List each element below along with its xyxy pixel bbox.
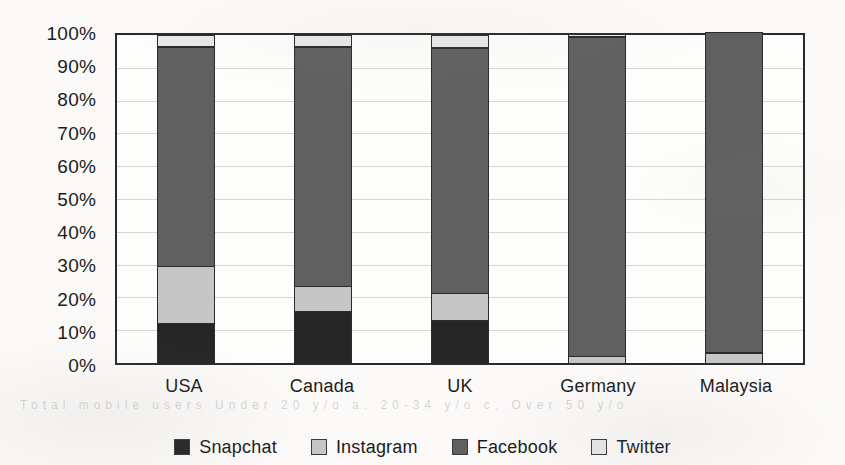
bar-segment-instagram[interactable] (157, 266, 215, 324)
legend-swatch-facebook (452, 439, 468, 455)
y-axis-tick-label: 80% (57, 90, 96, 109)
x-axis-tick-label: USA (165, 376, 203, 396)
stacked-bar-chart: 100%90%80%70%60%50%40%30%20%10%0% USACan… (0, 0, 845, 465)
x-axis-tick-label: Germany (560, 376, 635, 396)
plot-area (115, 33, 805, 365)
bar-slot (117, 35, 254, 363)
x-axis-tick-slot: UK (391, 376, 529, 406)
x-axis-tick-label: Malaysia (700, 376, 773, 396)
bar-uk[interactable] (431, 35, 489, 363)
y-axis-tick-label: 70% (57, 123, 96, 142)
bar-segment-facebook[interactable] (431, 48, 489, 294)
bar-germany[interactable] (568, 34, 626, 363)
legend-label: Instagram (336, 437, 418, 458)
y-axis-tick-label: 0% (68, 356, 96, 375)
bar-malaysia[interactable] (705, 32, 763, 363)
y-axis-tick-label: 90% (57, 57, 96, 76)
bars-layer (117, 35, 803, 363)
legend-label: Facebook (477, 437, 558, 458)
bar-segment-snapchat[interactable] (294, 311, 352, 364)
legend-item-facebook[interactable]: Facebook (452, 437, 558, 458)
bar-segment-twitter[interactable] (431, 35, 489, 48)
bar-segment-instagram[interactable] (431, 293, 489, 321)
bar-segment-instagram[interactable] (568, 356, 626, 364)
y-axis-tick-label: 40% (57, 223, 96, 242)
y-axis: 100%90%80%70%60%50%40%30%20%10%0% (18, 33, 106, 365)
bar-segment-snapchat[interactable] (157, 323, 215, 365)
chart-legend: SnapchatInstagramFacebookTwitter (0, 432, 845, 462)
x-axis-tick-slot: Canada (253, 376, 391, 406)
legend-item-snapchat[interactable]: Snapchat (174, 437, 277, 458)
x-axis-tick-slot: Malaysia (667, 376, 805, 406)
bar-slot (391, 35, 528, 363)
y-axis-tick-label: 60% (57, 156, 96, 175)
bar-slot (529, 35, 666, 363)
bar-segment-facebook[interactable] (294, 47, 352, 288)
y-axis-tick-label: 20% (57, 289, 96, 308)
legend-swatch-snapchat (174, 439, 190, 455)
y-axis-tick-label: 50% (57, 190, 96, 209)
bar-segment-facebook[interactable] (705, 32, 763, 352)
bar-segment-facebook[interactable] (568, 37, 626, 357)
legend-label: Twitter (616, 437, 670, 458)
legend-label: Snapchat (199, 437, 277, 458)
x-axis-tick-label: UK (447, 376, 472, 396)
bar-segment-instagram[interactable] (705, 353, 763, 365)
bar-segment-snapchat[interactable] (431, 320, 489, 365)
bar-slot (254, 35, 391, 363)
bar-segment-twitter[interactable] (157, 35, 215, 47)
y-axis-tick-label: 10% (57, 322, 96, 341)
legend-swatch-twitter (591, 439, 607, 455)
bar-slot (666, 35, 803, 363)
x-axis-tick-slot: USA (115, 376, 253, 406)
y-axis-tick-label: 100% (47, 24, 96, 43)
x-axis: USACanadaUKGermanyMalaysia (115, 376, 805, 406)
bar-usa[interactable] (157, 35, 215, 363)
bar-segment-facebook[interactable] (157, 47, 215, 268)
bar-segment-twitter[interactable] (294, 35, 352, 47)
legend-item-instagram[interactable]: Instagram (311, 437, 418, 458)
x-axis-tick-label: Canada (290, 376, 354, 396)
legend-item-twitter[interactable]: Twitter (591, 437, 670, 458)
bar-canada[interactable] (294, 35, 352, 363)
legend-swatch-instagram (311, 439, 327, 455)
y-axis-tick-label: 30% (57, 256, 96, 275)
x-axis-tick-slot: Germany (529, 376, 667, 406)
bar-segment-instagram[interactable] (294, 286, 352, 313)
